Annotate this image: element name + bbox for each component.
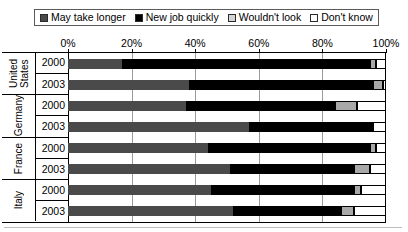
country-label-text: United States [8,59,30,88]
bar-row[interactable] [68,164,386,174]
x-tick-label-20: 20% [121,37,142,49]
bar-row[interactable] [68,59,386,69]
bar-segment-don-t-know [376,143,386,153]
x-tick-label-0: 0% [60,37,75,49]
bar-segment-new-job-quickly [122,59,370,69]
bar-segment-new-job-quickly [249,122,373,132]
year-label-2000: 2000 [36,180,68,200]
bar-segment-new-job-quickly [230,164,354,174]
bar-row[interactable] [68,122,386,132]
bar-segment-don-t-know [357,101,386,111]
country-label-text: Germany [13,95,24,136]
bar-row[interactable] [68,80,386,90]
chart-legend: May take longerNew job quicklyWouldn't l… [34,9,379,26]
bar-segment-may-take-longer [68,206,233,216]
footer-divider [4,227,402,228]
country-label-text: Italy [13,191,24,209]
legend-label: Wouldn't look [239,12,302,23]
x-tick-label-40: 40% [185,37,206,49]
x-tick-mark-100 [386,49,387,53]
year-label-2003: 2003 [36,200,68,221]
bar-segment-new-job-quickly [189,80,373,90]
year-label-2000: 2000 [36,138,68,158]
legend-label: Don't know [321,12,373,23]
category-group-france: France20002003 [2,137,68,179]
legend-item-0[interactable]: May take longer [40,12,126,23]
bar-row[interactable] [68,185,386,195]
bar-segment-may-take-longer [68,122,249,132]
bar-segment-don-t-know [383,80,386,90]
bar-segment-may-take-longer [68,185,211,195]
bar-segment-wouldn-t-look [341,206,354,216]
bar-segment-new-job-quickly [186,101,335,111]
country-label: Italy [2,180,36,221]
bar-segment-new-job-quickly [233,206,341,216]
bar-segment-may-take-longer [68,143,208,153]
category-group-italy: Italy20002003 [2,179,68,221]
x-axis-bottom-line [68,222,386,223]
country-label-text: France [13,143,24,174]
country-label: Germany [2,95,36,136]
x-axis-tick-labels: 0%20%40%60%80%100% [0,37,408,50]
chart-container: May take longerNew job quicklyWouldn't l… [0,0,408,232]
category-axis: United States20002003Germany20002003Fran… [2,52,68,223]
year-label-2003: 2003 [36,115,68,136]
bar-row[interactable] [68,101,386,111]
legend-swatch-icon [228,14,236,22]
legend-item-3[interactable]: Don't know [310,12,373,23]
year-label-2003: 2003 [36,158,68,179]
year-labels: 20002003 [36,95,68,136]
bar-segment-wouldn-t-look [354,164,370,174]
bar-row[interactable] [68,206,386,216]
year-label-2000: 2000 [36,95,68,115]
bar-segment-new-job-quickly [208,143,370,153]
bars-layer [68,53,386,222]
bar-segment-may-take-longer [68,164,230,174]
country-label: United States [2,52,36,94]
bar-segment-don-t-know [370,164,386,174]
category-group-united-states: United States20002003 [2,52,68,94]
legend-label: New job quickly [146,12,219,23]
bar-segment-wouldn-t-look [335,101,357,111]
x-tick-label-60: 60% [248,37,269,49]
legend-swatch-icon [310,14,318,22]
bar-segment-don-t-know [354,206,386,216]
bar-segment-don-t-know [361,185,386,195]
x-tick-label-80: 80% [312,37,333,49]
bar-segment-new-job-quickly [211,185,354,195]
year-labels: 20002003 [36,52,68,94]
bar-segment-may-take-longer [68,59,122,69]
year-labels: 20002003 [36,138,68,179]
legend-label: May take longer [51,12,126,23]
bar-segment-may-take-longer [68,101,186,111]
year-label-2000: 2000 [36,52,68,73]
legend-swatch-icon [135,14,143,22]
bar-segment-don-t-know [376,59,386,69]
bar-segment-wouldn-t-look [373,80,383,90]
bar-segment-don-t-know [373,122,386,132]
legend-item-1[interactable]: New job quickly [135,12,219,23]
bar-row[interactable] [68,143,386,153]
bar-segment-may-take-longer [68,80,189,90]
x-tick-label-100: 100% [373,37,400,49]
legend-swatch-icon [40,14,48,22]
year-label-2003: 2003 [36,73,68,95]
legend-item-2[interactable]: Wouldn't look [228,12,302,23]
country-label: France [2,138,36,179]
year-labels: 20002003 [36,180,68,221]
category-group-germany: Germany20002003 [2,94,68,136]
